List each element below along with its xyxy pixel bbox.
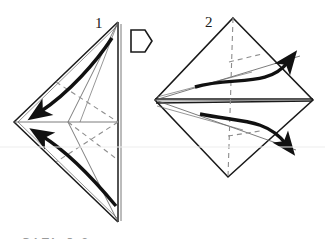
caption-strip: STEP 5-6 <box>0 238 325 247</box>
origami-diagram-svg: 1 <box>0 0 325 247</box>
caption-text: STEP 5-6 <box>22 238 90 242</box>
fold-arrow-lower-right <box>200 114 286 144</box>
step-2-outline <box>155 18 313 177</box>
next-step-arrow <box>131 30 152 52</box>
fold-arrow-upper-left <box>40 38 112 112</box>
origami-figure: 1 <box>0 0 325 247</box>
step-1-diagram: 1 <box>14 15 121 222</box>
step-2-diagram: 2 <box>155 14 313 177</box>
step-2-number: 2 <box>205 14 213 30</box>
step-1-number: 1 <box>95 15 103 31</box>
